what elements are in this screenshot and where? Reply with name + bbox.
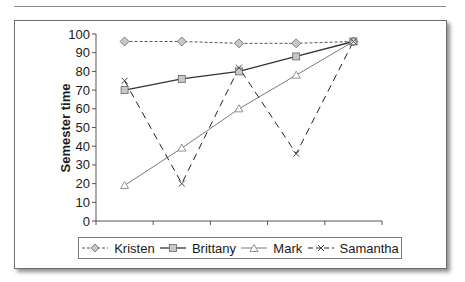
data-point-brittany <box>293 53 300 60</box>
data-point-samantha <box>293 151 299 157</box>
y-tick-label: 50 <box>76 120 90 135</box>
data-point-kristen <box>177 37 186 46</box>
x-axis <box>96 221 382 225</box>
data-point-brittany <box>236 68 243 75</box>
data-point-mark <box>235 105 243 112</box>
legend-item-mark: Mark <box>240 241 302 256</box>
legend-item-brittany: Brittany <box>159 241 236 256</box>
y-tick-label: 90 <box>76 45 90 60</box>
y-tick-label: 60 <box>76 101 90 116</box>
legend-label: Samantha <box>340 241 399 256</box>
data-point-brittany <box>178 75 185 82</box>
series-line-samantha <box>125 41 354 183</box>
y-tick-label: 100 <box>68 27 90 42</box>
data-point-mark <box>121 181 129 188</box>
y-tick-label: 10 <box>76 195 90 210</box>
plot-area <box>120 37 358 188</box>
legend-label: Kristen <box>114 241 154 256</box>
y-axis-title: Semester time <box>58 84 73 173</box>
data-point-kristen <box>235 39 244 48</box>
diamond-dashed-line-icon <box>81 243 109 253</box>
data-point-samantha <box>179 181 185 187</box>
y-tick-label: 0 <box>83 214 90 229</box>
x-mark-dashed-line-icon <box>307 243 335 253</box>
y-tick-label: 70 <box>76 83 90 98</box>
legend: Kristen Brittany Mark Samantha <box>78 237 402 259</box>
data-point-mark <box>292 71 300 78</box>
square-solid-line-icon <box>159 243 187 253</box>
y-tick-label: 80 <box>76 64 90 79</box>
legend-label: Mark <box>273 241 302 256</box>
series-line-mark <box>125 41 354 185</box>
legend-label: Brittany <box>192 241 236 256</box>
data-point-brittany <box>121 87 128 94</box>
legend-item-kristen: Kristen <box>81 241 154 256</box>
y-tick-label: 30 <box>76 157 90 172</box>
triangle-line-icon <box>240 243 268 253</box>
data-point-kristen <box>292 39 301 48</box>
data-point-samantha <box>122 78 128 84</box>
data-point-kristen <box>120 37 129 46</box>
y-tick-label: 40 <box>76 139 90 154</box>
y-tick-label: 20 <box>76 176 90 191</box>
series-line-brittany <box>125 41 354 90</box>
legend-item-samantha: Samantha <box>307 241 399 256</box>
data-point-mark <box>178 144 186 151</box>
